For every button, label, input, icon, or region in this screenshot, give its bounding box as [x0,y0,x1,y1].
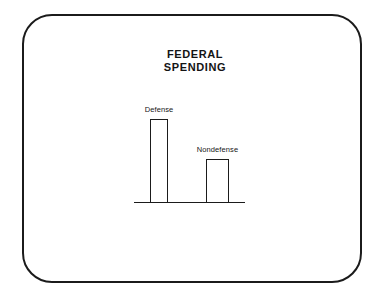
bar-defense [150,119,168,203]
bar-nondefense [206,159,229,203]
chart-baseline-axis [134,202,245,203]
bar-chart-plot-area: Defense Nondefense [0,0,382,297]
bar-label-nondefense: Nondefense [186,145,249,154]
bar-label-defense: Defense [128,105,190,114]
